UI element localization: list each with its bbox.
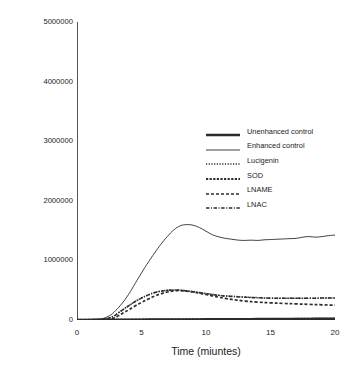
legend-line-sample — [206, 155, 240, 165]
legend-line-sample — [206, 199, 240, 209]
x-axis-tick-labels: 05101520 — [0, 324, 354, 338]
legend-line-sample — [206, 170, 240, 180]
legend-label: SOD — [247, 171, 263, 180]
y-tick-label: 4000000 — [21, 78, 73, 86]
x-tick-label: 15 — [259, 328, 283, 337]
chart-legend: Unenhanced controlEnhanced controlLucige… — [206, 124, 326, 212]
series-line — [77, 319, 335, 320]
legend-label: LNAC — [247, 200, 267, 209]
legend-item: Unenhanced control — [206, 124, 326, 139]
legend-item: Lucigenin — [206, 153, 326, 168]
legend-item: SOD — [206, 168, 326, 183]
legend-item: Enhanced control — [206, 139, 326, 154]
x-tick-label: 20 — [323, 328, 347, 337]
x-tick-label: 0 — [65, 328, 89, 337]
x-tick-label: 10 — [194, 328, 218, 337]
legend-line-sample — [206, 141, 240, 151]
legend-label: Enhanced control — [247, 141, 305, 150]
y-tick-label: 0 — [21, 316, 73, 324]
series-line — [77, 225, 335, 320]
legend-item: LNAME — [206, 182, 326, 197]
legend-label: LNAME — [247, 185, 272, 194]
y-axis-tick-labels: 010000002000000300000040000005000000 — [19, 0, 73, 370]
y-tick-label: 5000000 — [21, 18, 73, 26]
y-tick-label: 2000000 — [21, 197, 73, 205]
x-tick-label: 5 — [130, 328, 154, 337]
legend-label: Unenhanced control — [247, 127, 313, 136]
legend-label: Lucigenin — [247, 156, 279, 165]
legend-line-sample — [206, 126, 240, 136]
y-tick-label: 3000000 — [21, 137, 73, 145]
legend-line-sample — [206, 185, 240, 195]
chart-figure: Chemiluminescence (Relative Light Units)… — [0, 0, 354, 370]
y-tick-label: 1000000 — [21, 256, 73, 264]
x-axis-title: Time (miuntes) — [77, 345, 335, 357]
legend-item: LNAC — [206, 197, 326, 212]
